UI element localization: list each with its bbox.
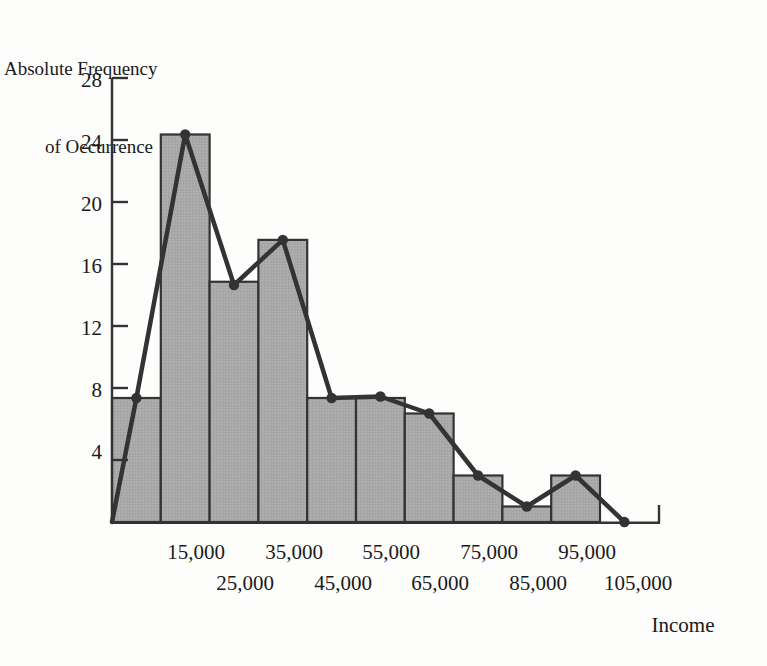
bar-105000 — [551, 476, 600, 523]
bar-35000 — [210, 282, 259, 522]
bar-75000 — [405, 414, 454, 523]
chart-canvas — [0, 0, 767, 666]
bar-55000 — [307, 398, 356, 522]
x-tick-label-105000: 105,000 — [578, 571, 698, 596]
x-axis-title: Income — [613, 613, 753, 638]
bar-65000 — [356, 398, 405, 522]
frequency-histogram-chart: Absolute Frequency of Occurrence 28 24 2… — [0, 0, 767, 666]
bar-45000 — [258, 240, 307, 522]
bars-group — [112, 135, 600, 523]
bar-85000 — [454, 476, 503, 523]
x-tick-label-95000: 95,000 — [527, 540, 647, 565]
